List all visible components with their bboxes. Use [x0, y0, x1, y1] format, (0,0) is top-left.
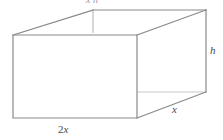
width-label-variable: x	[64, 123, 69, 135]
height-label: h	[210, 45, 216, 56]
clipped-top-label: x h	[86, 0, 98, 5]
visible-edges	[13, 10, 206, 118]
prism-drawing	[0, 0, 223, 140]
top-left-diagonal-edge	[13, 10, 93, 35]
front-face-outline	[13, 35, 137, 118]
depth-label: x	[172, 104, 177, 115]
top-right-diagonal-edge	[137, 10, 206, 35]
width-label: 2x	[58, 124, 68, 135]
hidden-edges	[93, 10, 206, 92]
prism-figure: x h 2x x h	[0, 0, 223, 140]
